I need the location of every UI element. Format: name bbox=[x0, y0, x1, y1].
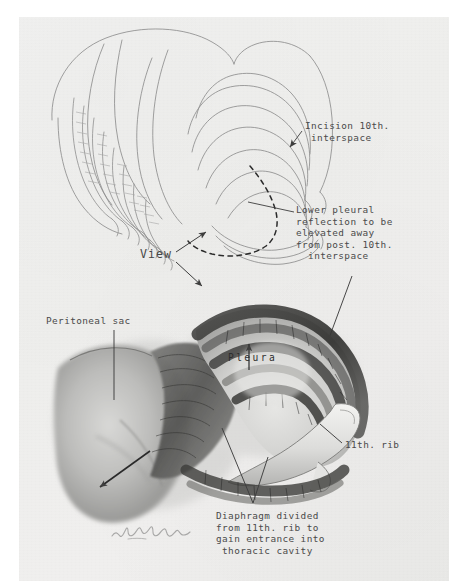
label-peritoneal-sac: Peritoneal sac bbox=[46, 315, 131, 327]
illustration-page: Incision 10th. interspace Lower pleural … bbox=[0, 0, 449, 581]
label-view: View bbox=[140, 249, 172, 261]
label-diaphragm-divided: Diaphragm divided from 11th. rib to gain… bbox=[216, 510, 325, 556]
label-lower-pleural-reflection: Lower pleural reflection to be elevated … bbox=[296, 204, 393, 262]
artist-signature: L. Schlossberg bbox=[108, 519, 203, 543]
lower-operative-figure bbox=[0, 0, 449, 581]
label-eleventh-rib: 11th. rib bbox=[345, 439, 399, 451]
label-pleura: Pleura bbox=[228, 352, 277, 363]
label-incision: Incision 10th. interspace bbox=[305, 120, 390, 143]
